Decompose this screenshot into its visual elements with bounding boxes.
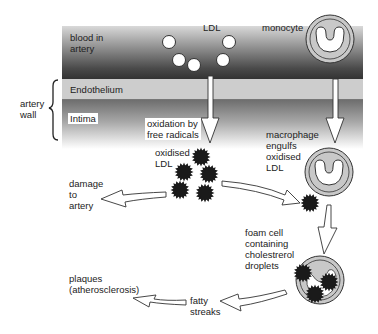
intima-label: Intima bbox=[68, 113, 98, 124]
macrophage-label: macrophage engulfs oxidised LDL bbox=[266, 129, 319, 173]
ldl-label: LDL bbox=[203, 22, 220, 33]
artery-wall-brace bbox=[49, 80, 58, 140]
oxidised-ldl-label: oxidised LDL bbox=[155, 147, 190, 169]
foam-cell bbox=[294, 256, 345, 304]
monocyte-cell bbox=[306, 15, 354, 63]
damage-label: damage to artery bbox=[69, 178, 103, 211]
oxidation-label: oxidation by free radicals bbox=[145, 118, 201, 140]
engulfed-ldl bbox=[301, 194, 320, 213]
ldl-particles bbox=[163, 36, 236, 72]
monocyte-down-arrow bbox=[326, 79, 344, 143]
damage-arrow bbox=[101, 190, 166, 207]
artery-wall-label: artery wall bbox=[20, 98, 44, 120]
blood-label: blood in artery bbox=[70, 32, 103, 54]
endothelium-label: Endothelium bbox=[70, 84, 123, 95]
to-macrophage-arrow bbox=[222, 181, 300, 205]
plaques-arrow bbox=[133, 295, 186, 307]
plaques-label: plaques (atherosclerosis) bbox=[69, 273, 139, 295]
fatty-streaks-arrow bbox=[220, 290, 287, 311]
fatty-streaks-label: fatty streaks bbox=[190, 295, 221, 317]
ldl-down-arrow bbox=[201, 76, 219, 143]
foam-cell-down-arrow bbox=[318, 205, 337, 254]
foam-cell-label: foam cell containing cholestrerol drople… bbox=[245, 227, 294, 271]
monocyte-label: monocyte bbox=[262, 22, 303, 33]
